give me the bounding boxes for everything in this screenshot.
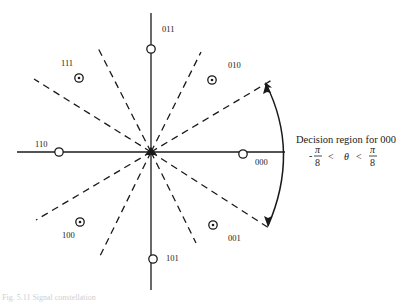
signal-point-011 [147, 45, 155, 53]
label-010: 010 [228, 60, 241, 70]
minus-sign: - [309, 150, 312, 161]
label-001: 001 [228, 233, 241, 243]
label-101: 101 [166, 253, 179, 263]
decision-region-arc [266, 84, 284, 226]
psk-constellation-diagram: 000 010 011 111 110 100 101 001 Decision… [0, 0, 407, 303]
label-110: 110 [35, 139, 47, 149]
label-011: 011 [162, 24, 174, 34]
decision-region-title: Decision region for 000 [296, 134, 396, 145]
label-100: 100 [62, 230, 75, 240]
signal-point-001 [209, 221, 217, 229]
boundary-337-5 [151, 152, 272, 230]
fraction-2-numerator: π [370, 144, 376, 155]
theta-symbol: θ [344, 151, 349, 162]
decision-region-inequality: - π 8 < θ < π 8 [309, 144, 377, 168]
origin-star-icon [145, 147, 157, 155]
boundary-157-5 [34, 79, 151, 152]
label-111: 111 [61, 58, 73, 68]
fraction-1-numerator: π [315, 144, 321, 155]
signal-point-100 [76, 218, 84, 226]
figure-caption: Fig. 5.11 Signal constellation [2, 293, 96, 302]
signal-point-010 [208, 76, 216, 84]
boundary-112-5 [98, 48, 151, 152]
less-than-1: < [328, 151, 334, 162]
signal-point-111 [75, 74, 83, 82]
signal-point-101 [149, 255, 157, 263]
signal-point-000 [239, 150, 247, 158]
fraction-2-denominator: 8 [370, 157, 375, 168]
label-000: 000 [255, 157, 268, 167]
boundary-292-5 [151, 152, 196, 243]
less-than-2: < [356, 151, 362, 162]
signal-point-110 [55, 148, 63, 156]
fraction-1-denominator: 8 [315, 157, 320, 168]
